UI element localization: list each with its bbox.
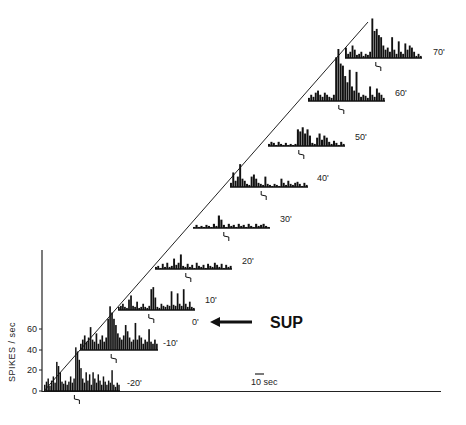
histogram-bar	[331, 144, 333, 146]
histogram-bar	[271, 186, 273, 187]
stimulus-marker-icon	[224, 232, 229, 241]
y-tick-20: 20	[27, 365, 37, 375]
histogram-bar	[378, 93, 380, 101]
histogram-bar	[347, 82, 349, 101]
histogram-bar	[258, 183, 260, 187]
histogram-bar	[144, 340, 146, 350]
histogram-bar	[303, 183, 305, 187]
histogram-bar	[66, 385, 67, 391]
histogram-bar	[82, 379, 83, 391]
histogram-bar	[200, 267, 202, 269]
histogram-bar	[292, 185, 294, 187]
histogram-bar	[230, 226, 232, 228]
y-tick-40: 40	[27, 345, 37, 355]
histogram-bar	[420, 56, 422, 58]
histogram-bar	[129, 338, 131, 350]
histogram-bar	[345, 48, 347, 58]
histogram-row	[193, 216, 270, 241]
histogram-bar	[169, 306, 171, 310]
row-label-60: 60'	[395, 88, 407, 98]
histogram-bar	[121, 340, 123, 350]
histogram-bar	[376, 89, 378, 101]
stimulus-marker-icon	[111, 354, 116, 363]
histogram-bar	[106, 385, 107, 391]
histogram-bar	[260, 184, 262, 187]
histogram-bar	[101, 385, 102, 391]
histogram-bar	[196, 263, 198, 269]
histogram-bar	[310, 95, 312, 101]
histogram-bar	[115, 387, 116, 391]
histogram-bar	[142, 304, 144, 310]
histogram-bar	[167, 305, 169, 310]
histogram-bar	[278, 142, 280, 146]
histogram-bar	[270, 142, 272, 146]
stimulus-marker-icon	[149, 314, 154, 323]
histogram-bar	[193, 308, 195, 310]
histogram-bar	[157, 266, 159, 269]
scale-bar-label: 10 sec	[251, 377, 278, 387]
histogram-bar	[180, 254, 182, 269]
histogram-bar	[333, 141, 335, 146]
histogram-row	[80, 306, 158, 363]
histogram-bar	[415, 56, 417, 58]
histogram-bar	[335, 143, 337, 146]
histogram-bar	[340, 142, 342, 146]
histogram-bar	[268, 227, 270, 228]
histogram-bar	[161, 304, 163, 310]
stimulus-marker-icon	[186, 273, 191, 282]
histogram-bar	[79, 360, 80, 391]
histogram-bar	[267, 184, 269, 187]
histogram-bar	[294, 144, 296, 146]
histogram-bar	[88, 338, 90, 350]
histogram-bar	[60, 372, 61, 391]
histogram-bar	[86, 342, 88, 350]
histogram-bar	[218, 216, 220, 228]
histogram-bar	[290, 184, 292, 187]
histogram-bar	[363, 56, 365, 58]
row-label-20: 20'	[242, 256, 254, 266]
histogram-bar	[233, 225, 235, 228]
arrow-left-icon	[210, 317, 220, 327]
histogram-bar	[316, 138, 318, 146]
histogram-bar	[337, 49, 339, 101]
stimulus-marker-icon	[299, 150, 304, 159]
histogram-bar	[342, 66, 344, 101]
histogram-bar	[98, 344, 100, 350]
histogram-bar	[371, 18, 373, 58]
histogram-bar	[134, 307, 136, 310]
histogram-bar	[299, 131, 301, 146]
histogram-bar	[221, 264, 223, 269]
histogram-row	[230, 164, 308, 200]
histogram-bar	[46, 382, 47, 391]
histogram-bar	[380, 95, 382, 101]
histogram-bar	[135, 323, 137, 350]
histogram-bar	[117, 383, 118, 391]
histogram-row	[268, 127, 345, 159]
histogram-bar	[294, 183, 296, 187]
histogram-bar	[187, 307, 189, 310]
histogram-bar	[400, 52, 402, 58]
stimulus-marker-icon	[261, 191, 266, 200]
histogram-bar	[171, 291, 173, 310]
histogram-rows	[44, 18, 422, 404]
histogram-bar	[182, 266, 184, 269]
histogram-bar	[175, 306, 177, 310]
histogram-bar	[393, 50, 395, 58]
histogram-bar	[155, 267, 157, 269]
histogram-bar	[193, 227, 195, 228]
histogram-bar	[262, 185, 264, 187]
histogram-row	[155, 254, 232, 282]
histogram-bar	[73, 379, 74, 391]
histogram-bar	[311, 143, 313, 146]
histogram-bar	[157, 307, 159, 310]
histogram-bar	[133, 340, 135, 350]
histogram-bar	[90, 327, 92, 350]
histogram-bar	[243, 225, 245, 228]
histogram-bar	[140, 338, 142, 350]
histogram-bar	[250, 226, 252, 228]
histogram-bar	[321, 140, 323, 146]
histogram-bar	[230, 266, 232, 269]
histogram-bar	[371, 95, 373, 101]
histogram-bar	[189, 302, 191, 310]
histogram-bar	[198, 266, 200, 269]
